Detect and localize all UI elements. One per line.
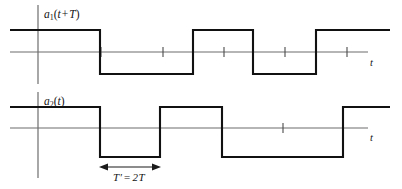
waveform-figure: a1(t+T) a2(t) t t T'=2T <box>0 0 402 189</box>
upper-axis-label: t <box>370 58 373 69</box>
upper-signal-paren-close: ) <box>76 8 80 20</box>
lower-signal-label: a2(t) <box>44 96 65 109</box>
period-value: 2T <box>133 171 145 183</box>
period-symbol: T' <box>113 171 122 183</box>
lower-axis-label: t <box>370 133 373 144</box>
period-arrow-head-left <box>99 164 108 171</box>
upper-signal-label: a1(t+T) <box>44 9 80 22</box>
lower-signal-paren-close: ) <box>61 95 65 107</box>
period-annotation-label: T'=2T <box>113 172 145 183</box>
lower-waveform-trace <box>10 107 390 157</box>
period-arrow-head-right <box>152 164 161 171</box>
period-arrow <box>99 164 161 171</box>
lower-plot-group <box>10 92 390 178</box>
period-equals: = <box>122 171 133 183</box>
